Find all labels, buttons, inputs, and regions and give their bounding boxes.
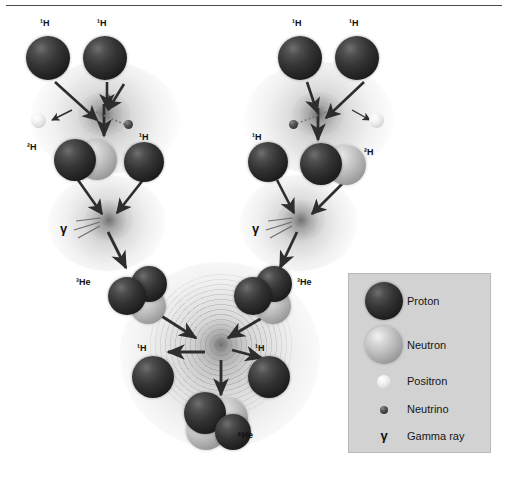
right-he3-proton-b	[234, 277, 272, 315]
right-fusion-burst-1	[292, 92, 344, 136]
left-fusion-burst-1	[78, 92, 130, 136]
neutrino-swatch-icon	[380, 406, 388, 414]
label-left-h1-c: ¹H	[139, 132, 149, 142]
fusion-diagram-figure: ¹H ¹H ²H ¹H γ ³He ¹H ¹H ²H ¹H γ ³He ¹H ¹…	[0, 0, 508, 477]
right-proton-a	[278, 36, 322, 80]
right-fusion-burst-2	[277, 200, 325, 240]
label-center-h1-left: ¹H	[137, 343, 147, 353]
neutron-swatch-icon	[365, 326, 403, 364]
gamma-ray-swatch-icon: γ	[377, 428, 391, 443]
left-proton-a	[26, 36, 70, 80]
label-left-he3: ³He	[76, 277, 91, 287]
center-proton-left	[132, 356, 174, 398]
right-neutrino	[289, 120, 298, 129]
left-deuterium-proton	[54, 139, 96, 181]
legend-panel: Proton Neutron Positron Neutrino γ Gamma…	[348, 273, 491, 453]
right-positron	[369, 113, 384, 128]
legend-label-gamma-ray: Gamma ray	[407, 430, 464, 442]
label-right-gamma: γ	[252, 221, 259, 236]
legend-label-proton: Proton	[407, 295, 439, 307]
positron-swatch-icon	[377, 375, 391, 389]
label-product-he4: ⁴He	[237, 430, 253, 440]
legend-row-proton: Proton	[349, 282, 490, 316]
label-right-h1-c: ¹H	[252, 132, 262, 142]
legend-row-positron: Positron	[349, 371, 490, 405]
legend-row-neutron: Neutron	[349, 326, 490, 360]
legend-label-neutron: Neutron	[407, 339, 446, 351]
left-positron	[31, 113, 46, 128]
label-right-h2: ²H	[364, 147, 374, 157]
top-horizontal-rule	[6, 5, 502, 6]
right-deuterium-proton	[300, 143, 342, 185]
left-proton-b	[83, 36, 127, 80]
legend-label-positron: Positron	[407, 375, 447, 387]
label-left-h1-a: ¹H	[40, 18, 50, 28]
label-left-h2: ²H	[27, 142, 37, 152]
center-proton-right	[248, 356, 290, 398]
left-neutrino	[124, 120, 133, 129]
legend-label-neutrino: Neutrino	[407, 403, 449, 415]
label-center-h1-right: ¹H	[255, 343, 265, 353]
label-left-gamma: γ	[60, 221, 67, 236]
proton-swatch-icon	[365, 282, 403, 320]
label-right-h1-b: ¹H	[349, 18, 359, 28]
label-right-he3: ³He	[297, 277, 312, 287]
label-left-h1-b: ¹H	[97, 18, 107, 28]
left-proton-c	[124, 142, 164, 182]
right-proton-b	[335, 36, 379, 80]
legend-row-gamma: γ Gamma ray	[349, 429, 490, 463]
right-proton-c	[248, 142, 288, 182]
left-fusion-burst-2	[85, 200, 133, 240]
left-he3-proton-b	[108, 277, 146, 315]
central-fusion-burst	[196, 320, 246, 368]
label-right-h1-a: ¹H	[292, 18, 302, 28]
